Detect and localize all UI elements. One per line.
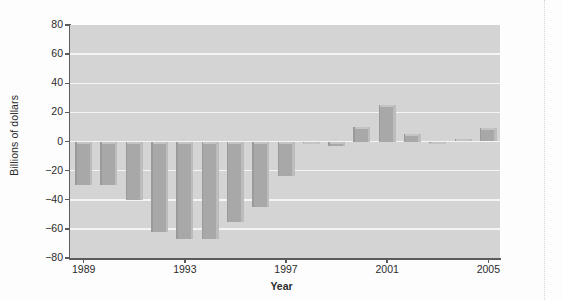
y-axis-title-label: Billions of dollars [8,95,20,176]
bar [151,142,168,232]
bar-right-face [90,142,93,186]
x-axis-title: Year [0,280,563,292]
bar-right-face [292,142,295,177]
bar-left-edge [480,128,482,141]
y-tick-label: 60 [30,47,63,59]
y-tick-label: −80 [30,251,63,263]
bar-right-face [343,142,346,146]
x-axis-title-label: Year [270,280,292,292]
bar-left-edge [303,142,305,144]
bar [75,142,92,186]
y-tick-label: −40 [30,193,63,205]
bar-left-edge [227,142,229,222]
bar [202,142,219,240]
bar-right-face [469,139,472,142]
bar-left-edge [429,142,431,144]
bar-left-edge [455,139,457,142]
bar [278,142,295,177]
bar [303,142,320,144]
bar-right-face [317,142,320,144]
y-tick-mark [65,228,69,229]
bar [100,142,117,186]
bar [404,134,421,141]
bar-right-face [418,134,421,141]
bar-right-face [494,128,497,141]
bar-left-edge [176,142,178,240]
y-tick-label: 80 [30,18,63,30]
bar-left-edge [328,142,330,146]
chart-figure: Billions of dollars 806040200−20−40−60−8… [0,0,563,300]
bar [252,142,269,208]
y-tick-label: 40 [30,76,63,88]
bar-left-edge [75,142,77,186]
bar-left-edge [252,142,254,208]
y-tick-label: −60 [30,222,63,234]
y-tick-mark [65,83,69,84]
bar [429,142,446,144]
bar-right-face [393,105,396,141]
bar-left-edge [353,127,355,142]
bar-left-edge [126,142,128,200]
x-tick-label: 1993 [173,263,196,275]
bar-right-face [140,142,143,200]
y-tick-mark [65,257,69,258]
plot-area [70,25,500,258]
bar-right-face [115,142,118,186]
bar-left-edge [379,105,381,141]
bar-left-edge [278,142,280,177]
bar [379,105,396,141]
bar-right-face [191,142,194,240]
x-tick-label: 2001 [375,263,398,275]
y-tick-mark [65,53,69,54]
gridline [70,53,500,55]
bar-right-face [267,142,270,208]
y-tick-mark [65,199,69,200]
x-tick-label: 2005 [477,263,500,275]
y-axis-title: Billions of dollars [2,0,26,270]
bar-left-edge [100,142,102,186]
y-tick-label: −20 [30,164,63,176]
bar-right-face [166,142,169,232]
bar [480,128,497,141]
x-tick-label: 1997 [274,263,297,275]
y-tick-mark [65,141,69,142]
bar [328,142,345,146]
gridline [70,228,500,230]
y-tick-mark [65,24,69,25]
bar-right-face [368,127,371,142]
bar-right-face [444,142,447,144]
scan-dotted-rule [544,0,545,300]
bar-left-edge [151,142,153,232]
bar [455,139,472,142]
y-tick-label: 20 [30,105,63,117]
bar-left-edge [404,134,406,141]
gridline [70,83,500,85]
y-tick-label: 0 [30,135,63,147]
bar-right-face [241,142,244,222]
bar [227,142,244,222]
gridline [70,112,500,114]
bar [176,142,193,240]
bar-left-edge [202,142,204,240]
bar [353,127,370,142]
bar [126,142,143,200]
y-tick-mark [65,170,69,171]
y-tick-mark [65,112,69,113]
bar-right-face [216,142,219,240]
x-tick-label: 1989 [72,263,95,275]
